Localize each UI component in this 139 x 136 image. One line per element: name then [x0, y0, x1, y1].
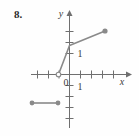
left-branch-segment [30, 101, 61, 106]
left-branch-end-closed-point [56, 101, 61, 106]
x-axis-arrowhead [126, 72, 132, 78]
y-axis-arrowhead [67, 10, 73, 16]
middle-branch-start-open-point [56, 72, 61, 77]
x-unit-label: 1 [78, 81, 83, 92]
y-axis-label: y [58, 8, 64, 19]
middle-branch-end-closed-point [102, 28, 107, 33]
axes-group [31, 10, 132, 128]
x-axis-label: x [119, 76, 125, 87]
origin-label: 0 [64, 77, 69, 88]
figure-container: 8. [0, 0, 139, 136]
y-unit-label: 1 [78, 48, 83, 59]
coordinate-graph: x y 0 1 1 [0, 0, 139, 136]
left-branch-start-closed-point [30, 101, 35, 106]
